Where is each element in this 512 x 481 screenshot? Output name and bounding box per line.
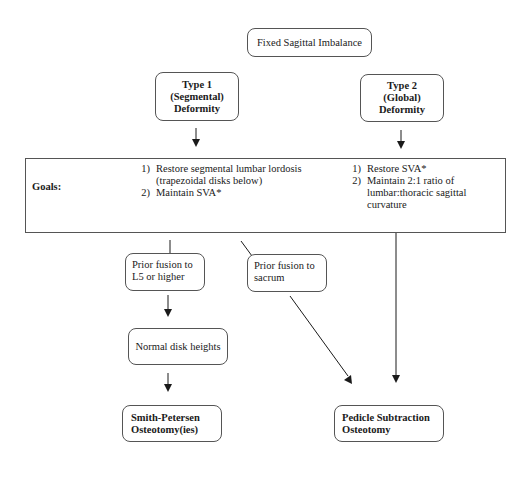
type1-goal-1: 1) Restore segmental lumbar lordosis (tr… xyxy=(130,163,330,187)
type2-goal-2: 2) Maintain 2:1 ratio of lumbar:thoracic… xyxy=(341,175,491,211)
type2-deformity-box: Type 2 (Global) Deformity xyxy=(360,74,444,122)
pedicle-subtraction-osteotomy-box: Pedicle Subtraction Osteotomy xyxy=(334,405,444,442)
prior-fusion-l5-label: Prior fusion to L5 or higher xyxy=(132,259,193,282)
pso-line-2: Osteotomy xyxy=(342,424,436,436)
pso-line-1: Pedicle Subtraction xyxy=(342,412,436,424)
type1-line-1: Type 1 xyxy=(182,79,212,91)
type2-line-3: Deformity xyxy=(379,104,425,116)
fixed-sagittal-imbalance-box: Fixed Sagittal Imbalance xyxy=(247,28,372,57)
goal-text: Restore segmental lumbar lordosis (trape… xyxy=(156,163,330,187)
goals-label: Goals: xyxy=(32,181,61,193)
goal-text: Maintain SVA* xyxy=(156,187,221,199)
goals-box: Goals: 1) Restore segmental lumbar lordo… xyxy=(25,158,506,233)
prior-fusion-sacrum-box: Prior fusion to sacrum xyxy=(247,254,327,292)
spo-line-1: Smith-Petersen xyxy=(131,412,213,424)
goal-number: 1) xyxy=(341,163,367,175)
goal-text: Restore SVA* xyxy=(367,163,427,175)
type1-goal-2: 2) Maintain SVA* xyxy=(130,187,330,199)
type2-line-1: Type 2 xyxy=(387,80,417,92)
arrow-prior-fusion-l5-to-normal-disk xyxy=(164,295,172,317)
type1-goals-list: 1) Restore segmental lumbar lordosis (tr… xyxy=(130,163,330,199)
type2-goals-list: 1) Restore SVA* 2) Maintain 2:1 ratio of… xyxy=(341,163,491,211)
normal-disk-heights-box: Normal disk heights xyxy=(128,328,228,365)
type2-goal-1: 1) Restore SVA* xyxy=(341,163,491,175)
type1-deformity-box: Type 1 (Segmental) Deformity xyxy=(155,72,239,121)
normal-disk-heights-label: Normal disk heights xyxy=(135,341,220,353)
arrow-type1-to-goals xyxy=(192,128,200,147)
arrow-type2-to-goals xyxy=(397,130,405,149)
prior-fusion-sacrum-label: Prior fusion to sacrum xyxy=(254,260,315,283)
type2-line-2: (Global) xyxy=(383,92,420,104)
goal-text: Maintain 2:1 ratio of lumbar:thoracic sa… xyxy=(367,175,491,211)
goal-number: 2) xyxy=(341,175,367,211)
fixed-sagittal-imbalance-label: Fixed Sagittal Imbalance xyxy=(257,37,362,49)
type1-line-3: Deformity xyxy=(174,103,220,115)
smith-petersen-osteotomy-box: Smith-Petersen Osteotomy(ies) xyxy=(122,405,222,442)
type1-line-2: (Segmental) xyxy=(170,91,224,103)
goal-number: 1) xyxy=(130,163,156,187)
goal-number: 2) xyxy=(130,187,156,199)
spo-line-2: Osteotomy(ies) xyxy=(131,424,213,436)
arrow-prior-fusion-sacrum-to-pso xyxy=(290,296,352,384)
arrow-goals-to-pso xyxy=(392,233,400,383)
prior-fusion-l5-box: Prior fusion to L5 or higher xyxy=(125,253,205,291)
arrow-normal-disk-to-spo xyxy=(164,373,172,392)
